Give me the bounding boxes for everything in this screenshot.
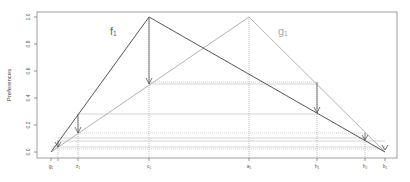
x-tick-label: a₁ — [247, 163, 252, 169]
vertical-guides — [58, 17, 365, 158]
y-tick-label: 0.8 — [25, 40, 31, 47]
series-f1-line — [51, 17, 385, 152]
label-g1: g₁ — [278, 25, 288, 37]
series-g1-line — [51, 17, 385, 152]
x-tick-label: b₁ — [383, 163, 388, 169]
y-tick-label: 0.2 — [25, 121, 31, 128]
plot-frame — [37, 12, 397, 158]
y-tick-label: 0.4 — [25, 94, 31, 101]
x-tick-label: h₂ — [363, 163, 368, 169]
y-axis — [34, 17, 37, 152]
horizontal-guides — [51, 82, 385, 149]
y-tick-label: 0.0 — [25, 148, 31, 155]
preferences-chart: Preferences 0.0 0.2 0.4 0.6 0.8 1.0 g₁ z… — [0, 0, 410, 182]
x-axis — [51, 158, 385, 161]
y-tick-label: 1.0 — [25, 13, 31, 20]
x-tick-label: c₁ — [147, 163, 152, 169]
x-tick-label: h₁ — [315, 163, 320, 169]
y-tick-label: 0.6 — [25, 67, 31, 74]
arrows — [55, 17, 388, 150]
x-tick-label: z₁ — [76, 163, 81, 169]
y-axis-label: Preferences — [6, 69, 12, 101]
x-tick-label: g₁ — [49, 163, 54, 169]
label-f1: f₁ — [110, 25, 117, 37]
